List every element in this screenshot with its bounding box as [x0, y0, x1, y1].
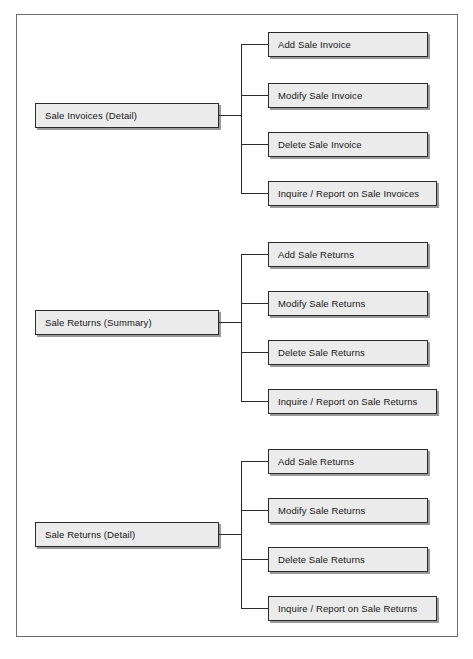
node-delete-sale-invoice[interactable]: Delete Sale Invoice	[268, 132, 428, 157]
node-label: Add Sale Invoice	[269, 39, 357, 50]
node-delete-sale-returns-summary[interactable]: Delete Sale Returns	[268, 340, 428, 365]
node-modify-sale-returns-summary[interactable]: Modify Sale Returns	[268, 291, 428, 316]
node-label: Delete Sale Returns	[269, 347, 371, 358]
connector-parent-stub-group-1	[219, 115, 242, 116]
node-add-sale-invoice[interactable]: Add Sale Invoice	[268, 32, 428, 57]
node-label: Add Sale Returns	[269, 456, 360, 467]
connector-branch-1-1	[241, 44, 269, 45]
node-add-sale-returns-detail[interactable]: Add Sale Returns	[268, 449, 428, 474]
connector-parent-stub-group-2	[219, 322, 242, 323]
connector-branch-1-3	[241, 144, 269, 145]
connector-branch-2-3	[241, 352, 269, 353]
connector-parent-stub-group-3	[219, 534, 242, 535]
node-label: Add Sale Returns	[269, 249, 360, 260]
node-label: Inquire / Report on Sale Returns	[269, 603, 423, 614]
node-modify-sale-returns-detail[interactable]: Modify Sale Returns	[268, 498, 428, 523]
connector-branch-2-1	[241, 254, 269, 255]
connector-spine-group-2	[241, 254, 242, 402]
connector-branch-3-2	[241, 510, 269, 511]
connector-spine-group-1	[241, 44, 242, 194]
connector-branch-3-3	[241, 559, 269, 560]
connector-branch-1-4	[241, 193, 269, 194]
node-label: Inquire / Report on Sale Invoices	[269, 188, 425, 199]
connector-branch-2-2	[241, 303, 269, 304]
node-parent-sale-returns-summary[interactable]: Sale Returns (Summary)	[35, 310, 219, 335]
connector-branch-2-4	[241, 401, 269, 402]
node-label: Delete Sale Invoice	[269, 139, 368, 150]
node-inquire-report-on-sale-invoices[interactable]: Inquire / Report on Sale Invoices	[268, 181, 437, 206]
node-inquire-report-on-sale-returns-summary[interactable]: Inquire / Report on Sale Returns	[268, 389, 437, 414]
node-delete-sale-returns-detail[interactable]: Delete Sale Returns	[268, 547, 428, 572]
node-label: Sale Returns (Detail)	[36, 529, 141, 540]
node-inquire-report-on-sale-returns-detail[interactable]: Inquire / Report on Sale Returns	[268, 596, 437, 621]
node-label: Sale Returns (Summary)	[36, 317, 158, 328]
node-modify-sale-invoice[interactable]: Modify Sale Invoice	[268, 83, 428, 108]
node-parent-sale-invoices-detail[interactable]: Sale Invoices (Detail)	[35, 103, 219, 128]
connector-branch-1-2	[241, 95, 269, 96]
node-parent-sale-returns-detail[interactable]: Sale Returns (Detail)	[35, 522, 219, 547]
decomposition-diagram: Sale Invoices (Detail) Add Sale Invoice …	[0, 0, 473, 659]
connector-branch-3-4	[241, 608, 269, 609]
connector-spine-group-3	[241, 461, 242, 609]
node-label: Modify Sale Returns	[269, 298, 371, 309]
node-label: Delete Sale Returns	[269, 554, 371, 565]
node-label: Sale Invoices (Detail)	[36, 110, 143, 121]
node-label: Modify Sale Invoice	[269, 90, 368, 101]
node-label: Modify Sale Returns	[269, 505, 371, 516]
node-label: Inquire / Report on Sale Returns	[269, 396, 423, 407]
node-add-sale-returns-summary[interactable]: Add Sale Returns	[268, 242, 428, 267]
connector-branch-3-1	[241, 461, 269, 462]
